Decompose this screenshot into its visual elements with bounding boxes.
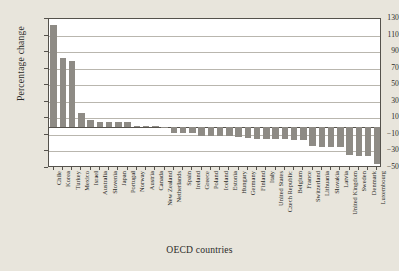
- x-tick: [90, 167, 91, 170]
- x-category-label: Hungary: [240, 171, 247, 194]
- x-tick: [99, 167, 100, 170]
- chart-page: Percentage change 1301109070503010−10−30…: [0, 0, 399, 271]
- x-category-label: Slovakia: [333, 171, 340, 194]
- x-tick: [191, 167, 192, 170]
- x-category-label: Iceland: [222, 171, 229, 190]
- bar: [198, 127, 205, 136]
- bar: [189, 127, 196, 134]
- x-axis-category-labels: ChileKoreaTurkeyMexicoIsraelAustraliaSlo…: [48, 171, 381, 241]
- x-category-label: Slovenia: [111, 171, 118, 194]
- bar: [60, 58, 67, 127]
- bar: [319, 127, 326, 148]
- bar: [180, 127, 187, 134]
- x-tick: [228, 167, 229, 170]
- x-tick: [321, 167, 322, 170]
- x-category-label: Spain: [185, 171, 192, 186]
- bar: [134, 126, 141, 127]
- bar: [143, 126, 150, 127]
- x-category-label: Korea: [64, 171, 71, 187]
- x-category-label: Netherlands: [175, 171, 182, 202]
- bar: [97, 122, 104, 127]
- x-category-label: France: [305, 171, 312, 189]
- bar: [226, 127, 233, 136]
- bar: [337, 127, 344, 148]
- x-tick: [284, 167, 285, 170]
- x-tick: [164, 167, 165, 170]
- x-tick: [210, 167, 211, 170]
- x-category-label: Israel: [92, 171, 99, 186]
- x-category-label: Denmark: [370, 171, 377, 195]
- bar: [328, 127, 335, 148]
- x-category-label: Luxembourg: [379, 171, 386, 204]
- x-tick: [247, 167, 248, 170]
- x-tick: [339, 167, 340, 170]
- x-tick: [256, 167, 257, 170]
- x-category-label: Australia: [101, 171, 108, 195]
- bar: [374, 127, 381, 164]
- bar: [282, 127, 289, 139]
- x-tick: [145, 167, 146, 170]
- x-tick: [312, 167, 313, 170]
- x-category-label: Latvia: [342, 171, 349, 188]
- x-tick: [302, 167, 303, 170]
- bar: [106, 122, 113, 127]
- bar: [346, 127, 353, 155]
- bar: [208, 127, 215, 136]
- x-category-label: Chile: [55, 171, 62, 185]
- x-tick: [265, 167, 266, 170]
- x-tick: [367, 167, 368, 170]
- bar: [217, 127, 224, 136]
- x-tick: [349, 167, 350, 170]
- x-category-label: Norway: [138, 171, 145, 192]
- x-axis-label: OECD countries: [0, 244, 399, 255]
- x-category-label: Poland: [212, 171, 219, 189]
- plot-area: [48, 18, 381, 167]
- bar: [69, 61, 76, 126]
- x-tick: [108, 167, 109, 170]
- bar: [365, 127, 372, 156]
- x-category-label: Sweden: [360, 171, 367, 192]
- x-category-label: Canada: [157, 171, 164, 190]
- x-category-label: Greece: [203, 171, 210, 189]
- bar-series: [49, 19, 380, 166]
- bar: [291, 127, 298, 140]
- bar: [50, 25, 57, 127]
- x-category-label: Ireland: [194, 171, 201, 189]
- x-category-label: Japan: [120, 171, 127, 186]
- bar: [272, 127, 279, 139]
- bar: [115, 122, 122, 126]
- x-tick: [173, 167, 174, 170]
- x-category-label: Estonia: [231, 171, 238, 191]
- bar: [124, 122, 131, 126]
- x-tick: [117, 167, 118, 170]
- x-category-label: Czech Republic: [286, 171, 293, 212]
- bar: [171, 127, 178, 134]
- bar: [152, 126, 159, 127]
- x-tick: [53, 167, 54, 170]
- x-tick: [201, 167, 202, 170]
- x-tick: [127, 167, 128, 170]
- bar: [245, 127, 252, 139]
- x-category-label: Portugal: [129, 171, 136, 193]
- x-tick: [62, 167, 63, 170]
- x-tick: [136, 167, 137, 170]
- x-tick: [275, 167, 276, 170]
- bar: [161, 127, 168, 128]
- x-tick: [219, 167, 220, 170]
- bar: [309, 127, 316, 147]
- bar: [263, 127, 270, 139]
- bar: [78, 113, 85, 126]
- x-category-label: United States: [277, 171, 284, 206]
- x-category-label: Lithuania: [323, 171, 330, 196]
- bar: [254, 127, 261, 139]
- x-tick: [182, 167, 183, 170]
- x-tick: [71, 167, 72, 170]
- x-tick: [154, 167, 155, 170]
- x-tick: [376, 167, 377, 170]
- x-category-label: New Zealand: [166, 171, 173, 206]
- bar: [87, 120, 94, 127]
- x-tick: [358, 167, 359, 170]
- x-category-label: Switzerland: [314, 171, 321, 202]
- x-category-label: Belgium: [296, 171, 303, 193]
- x-category-label: Finland: [259, 171, 266, 191]
